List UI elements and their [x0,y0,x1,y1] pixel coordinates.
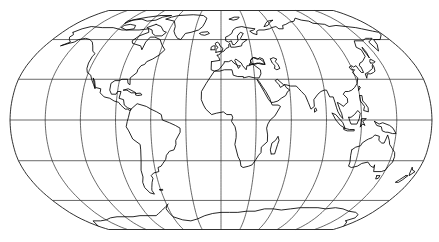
world-map-canvas [0,0,439,242]
coastline-falklands [160,189,163,190]
world-map [0,0,439,242]
